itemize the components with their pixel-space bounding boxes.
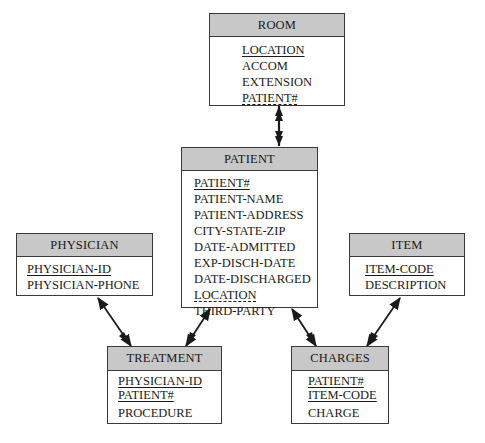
entity-charges: CHARGES PATIENT# ITEM-CODE CHARGE: [291, 346, 389, 424]
entity-room: ROOM LOCATION ACCOM EXTENSION PATIENT#: [209, 13, 345, 106]
item-charges-link: [367, 298, 400, 346]
attribute-patient-number: PATIENT#: [242, 90, 344, 106]
entity-item: ITEM ITEM-CODE DESCRIPTION: [349, 233, 465, 296]
attribute-city-state-zip: CITY-STATE-ZIP: [194, 223, 317, 239]
entity-treatment-title: TREATMENT: [108, 347, 221, 371]
attribute-procedure: PROCEDURE: [118, 405, 221, 421]
entity-item-title: ITEM: [350, 234, 464, 257]
attribute-physician-id: PHYSICIAN-ID: [118, 375, 221, 388]
attribute-location: LOCATION: [242, 42, 344, 58]
entity-treatment: TREATMENT PHYSICIAN-ID PATIENT# PROCEDUR…: [107, 346, 222, 424]
attribute-patient-number: PATIENT#: [308, 375, 388, 388]
attribute-third-party: THIRD-PARTY: [194, 303, 317, 319]
attribute-description: DESCRIPTION: [365, 277, 464, 293]
attribute-patient-number: PATIENT#: [118, 388, 221, 402]
attribute-exp-disch-date: EXP-DISCH-DATE: [194, 255, 317, 271]
attribute-extension: EXTENSION: [242, 74, 344, 90]
attribute-accom: ACCOM: [242, 58, 344, 74]
room-patient-link: [275, 106, 283, 146]
attribute-patient-address: PATIENT-ADDRESS: [194, 207, 317, 223]
attribute-patient-name: PATIENT-NAME: [194, 191, 317, 207]
attribute-physician-phone: PHYSICIAN-PHONE: [27, 277, 152, 293]
entity-room-title: ROOM: [210, 14, 344, 37]
attribute-item-code: ITEM-CODE: [308, 388, 388, 402]
attribute-date-admitted: DATE-ADMITTED: [194, 239, 317, 255]
physician-treatment-link: [98, 298, 131, 346]
attribute-charge: CHARGE: [308, 405, 388, 421]
entity-patient-title: PATIENT: [182, 148, 317, 171]
attribute-location: LOCATION: [194, 287, 317, 303]
attribute-date-discharged: DATE-DISCHARGED: [194, 271, 317, 287]
entity-physician: PHYSICIAN PHYSICIAN-ID PHYSICIAN-PHONE: [16, 233, 153, 296]
entity-patient: PATIENT PATIENT# PATIENT-NAME PATIENT-AD…: [181, 147, 318, 308]
attribute-patient-number: PATIENT#: [194, 175, 317, 191]
entity-physician-title: PHYSICIAN: [17, 234, 152, 257]
attribute-physician-id: PHYSICIAN-ID: [27, 261, 152, 277]
entity-charges-title: CHARGES: [292, 347, 388, 371]
attribute-item-code: ITEM-CODE: [365, 261, 464, 277]
